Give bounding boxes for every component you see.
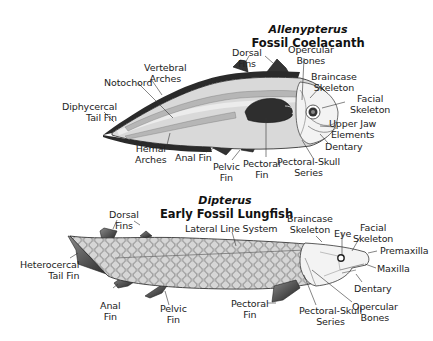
label-line: Anal Fin <box>175 152 212 163</box>
lungfish-label-pectoral-fin: Pectoral Fin <box>231 298 269 320</box>
label-line: Opercular <box>288 44 334 55</box>
label-line: Arches <box>135 154 167 165</box>
label-line: Maxilla <box>377 263 410 274</box>
label-line: Dentary <box>354 283 392 294</box>
label-line: Pectoral <box>231 298 269 309</box>
label-line: Pelvic <box>213 161 240 172</box>
label-line: Eye <box>334 228 351 239</box>
lungfish-label-opercular-bones: Opercular Bones <box>352 301 398 323</box>
label-line: Fins <box>232 58 262 69</box>
coelacanth-label-facial-skeleton: Facial Skeleton <box>350 93 390 115</box>
label-line: Tail Fin <box>20 270 79 281</box>
lungfish-label-heterocercal-tail-fin: Heterocercal Tail Fin <box>20 259 79 281</box>
label-line: Braincase <box>311 71 357 82</box>
lungfish-label-braincase-skeleton: Braincase Skeleton <box>287 213 333 235</box>
label-line: Lateral Line System <box>185 223 277 234</box>
label-line: Dentary <box>325 141 363 152</box>
lungfish-label-facial-skeleton: Facial Skeleton <box>353 222 393 244</box>
label-line: Facial <box>350 93 390 104</box>
coelacanth-label-dorsal-fins: Dorsal Fins <box>232 47 262 69</box>
label-line: Opercular <box>352 301 398 312</box>
coelacanth-label-diphycercal-tail-fin: Diphycercal Tail Fin <box>62 101 117 123</box>
label-line: Premaxilla <box>380 245 429 256</box>
lungfish-label-lateral-line-system: Lateral Line System <box>185 223 277 234</box>
coelacanth-label-anal-fin: Anal Fin <box>175 152 212 163</box>
label-line: Bones <box>352 312 398 323</box>
lungfish-common-name: Early Fossil Lungfish <box>160 207 290 221</box>
label-line: Fin <box>213 172 240 183</box>
lungfish-title: Dipterus Early Fossil Lungfish <box>160 194 290 221</box>
lungfish-label-dorsal-fins: Dorsal Fins <box>109 209 139 231</box>
label-line: Skeleton <box>350 104 390 115</box>
label-line: Pectoral <box>243 158 281 169</box>
lungfish-label-anal-fin: Anal Fin <box>100 300 121 322</box>
coelacanth-label-pectoral-skull-series: Pectoral-Skull Series <box>277 156 340 178</box>
label-line: Diphycercal <box>62 101 117 112</box>
label-line: Notochord <box>104 77 152 88</box>
label-line: Elements <box>329 129 376 140</box>
label-line: Pectoral-Skull <box>277 156 340 167</box>
label-line: Vertebral <box>144 62 187 73</box>
lungfish-label-eye: Eye <box>334 228 351 239</box>
lungfish-label-maxilla: Maxilla <box>377 263 410 274</box>
lungfish-genus: Dipterus <box>160 194 290 207</box>
coelacanth-label-braincase-skeleton: Braincase Skeleton <box>311 71 357 93</box>
label-line: Hemal <box>135 143 167 154</box>
lungfish-label-premaxilla: Premaxilla <box>380 245 429 256</box>
label-line: Upper Jaw <box>329 118 376 129</box>
label-line: Braincase <box>287 213 333 224</box>
coelacanth-label-dentary: Dentary <box>325 141 363 152</box>
fish-anatomy-diagram: Allenypterus Fossil Coelacanth Dorsal Fi… <box>0 0 433 341</box>
label-line: Bones <box>288 55 334 66</box>
coelacanth-label-pelvic-fin: Pelvic Fin <box>213 161 240 183</box>
label-line: Facial <box>353 222 393 233</box>
label-line: Tail Fin <box>62 112 117 123</box>
label-line: Fin <box>231 309 269 320</box>
label-line: Skeleton <box>287 224 333 235</box>
coelacanth-label-pectoral-fin: Pectoral Fin <box>243 158 281 180</box>
coelacanth-label-notochord: Notochord <box>104 77 152 88</box>
label-line: Fins <box>109 220 139 231</box>
label-line: Fin <box>160 314 187 325</box>
label-line: Skeleton <box>311 82 357 93</box>
label-line: Dorsal <box>109 209 139 220</box>
coelacanth-label-upper-jaw-elements: Upper Jaw Elements <box>329 118 376 140</box>
lungfish-label-pelvic-fin: Pelvic Fin <box>160 303 187 325</box>
label-line: Heterocercal <box>20 259 79 270</box>
lungfish-label-dentary: Dentary <box>354 283 392 294</box>
label-line: Dorsal <box>232 47 262 58</box>
coelacanth-label-hemal-arches: Hemal Arches <box>135 143 167 165</box>
label-line: Pelvic <box>160 303 187 314</box>
label-line: Series <box>277 167 340 178</box>
label-line: Anal <box>100 300 121 311</box>
label-line: Skeleton <box>353 233 393 244</box>
label-line: Fin <box>100 311 121 322</box>
label-line: Fin <box>243 169 281 180</box>
coelacanth-genus: Allenypterus <box>248 23 368 36</box>
coelacanth-label-opercular-bones: Opercular Bones <box>288 44 334 66</box>
